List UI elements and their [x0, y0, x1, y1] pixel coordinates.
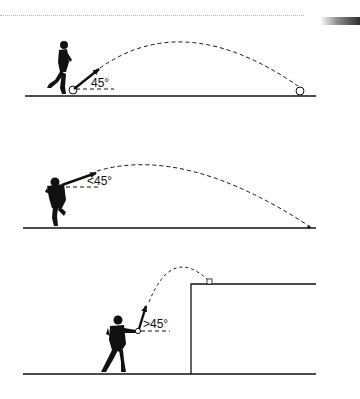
panel-3: >45° — [23, 267, 316, 374]
trajectory-arc — [100, 42, 298, 86]
player-figure-high-throw — [101, 316, 138, 373]
ball-landing — [207, 279, 212, 284]
player-figure-kicking — [47, 41, 72, 94]
panel-2: <45° — [23, 165, 316, 229]
panel-1: 45° — [25, 41, 316, 96]
ball-landing — [307, 225, 310, 228]
angle-label: >45° — [143, 317, 168, 331]
angle-label: 45° — [91, 76, 109, 90]
ball-landing — [296, 87, 304, 95]
projectile-angle-diagram: 45° <45° — [0, 0, 360, 399]
trajectory-arc — [97, 165, 309, 226]
angle-label: <45° — [87, 174, 112, 188]
wall — [191, 284, 316, 374]
